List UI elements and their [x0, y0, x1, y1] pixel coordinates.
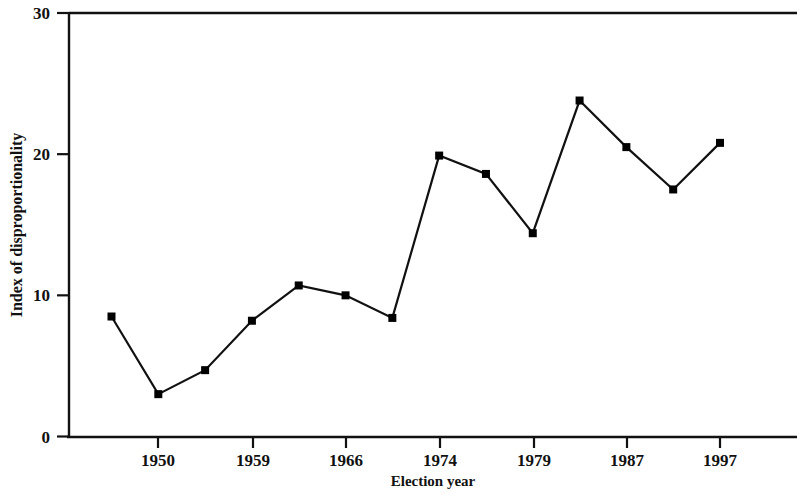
y-axis-title: Index of disproportionality [8, 133, 26, 318]
data-point-marker: 4.7 [201, 366, 209, 374]
line-chart: 0102030 1950195919661974197919871997 8.5… [0, 0, 804, 495]
data-point-marker: 10.7 [295, 281, 303, 289]
y-axis-tick-label: 10 [33, 286, 50, 305]
data-point-marker: 3 [154, 390, 162, 398]
data-point-marker: 14.4 [529, 229, 537, 237]
x-axis-tick-label: 1966 [329, 451, 363, 470]
x-axis-title: Election year [391, 473, 476, 489]
data-point-marker: 8.2 [248, 317, 256, 325]
data-point-marker: 18.6 [482, 170, 490, 178]
chart-background [0, 0, 804, 495]
y-axis-tick-label: 0 [42, 428, 51, 447]
x-axis-tick-label: 1974 [423, 451, 458, 470]
data-point-marker: 8.4 [388, 314, 396, 322]
x-axis-tick-label: 1987 [610, 451, 645, 470]
chart-figure: 0102030 1950195919661974197919871997 8.5… [0, 0, 804, 495]
x-axis-tick-label: 1950 [141, 451, 175, 470]
data-point-marker: 10 [342, 291, 350, 299]
data-point-marker: 20.8 [716, 139, 724, 147]
data-point-marker: 8.5 [108, 313, 116, 321]
x-axis-tick-label: 1979 [517, 451, 551, 470]
data-point-marker: 23.8 [576, 97, 584, 105]
y-axis-tick-label: 20 [33, 145, 50, 164]
data-point-marker: 20.5 [622, 143, 630, 151]
x-axis-tick-label: 1997 [703, 451, 738, 470]
data-point-marker: 19.9 [435, 152, 443, 160]
x-axis-tick-label: 1959 [236, 451, 270, 470]
y-axis-tick-label: 30 [33, 4, 50, 23]
data-point-marker: 17.5 [669, 185, 677, 193]
